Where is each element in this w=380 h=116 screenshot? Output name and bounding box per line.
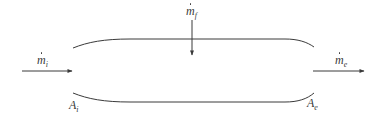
inlet-mass-flow-label: mi: [37, 54, 48, 69]
duct-bottom-wall: [73, 93, 314, 102]
subscript-e: e: [314, 103, 318, 112]
control-volume-diagram: mi mf me Ai Ae: [0, 0, 380, 116]
mass-flow-symbol: m: [37, 54, 46, 66]
fuel-mass-flow-label: mf: [186, 5, 197, 20]
inlet-area-label: Ai: [69, 99, 79, 114]
exit-area-label: Ae: [307, 97, 318, 112]
subscript-f: f: [195, 11, 197, 20]
subscript-i: i: [76, 105, 78, 114]
mass-flow-symbol: m: [335, 54, 344, 66]
duct-top-wall: [73, 39, 314, 48]
mass-flow-symbol: m: [186, 5, 195, 17]
subscript-e: e: [344, 60, 348, 69]
subscript-i: i: [46, 60, 48, 69]
exit-mass-flow-label: me: [335, 54, 347, 69]
